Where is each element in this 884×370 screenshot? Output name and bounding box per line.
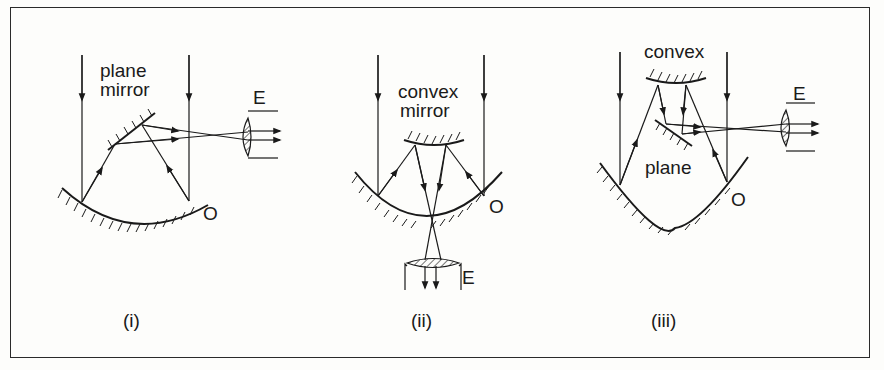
- plane-mirror-label-i-line1: plane: [100, 61, 147, 80]
- eyepiece-label-iii: E: [793, 84, 806, 103]
- objective-mirror-i: [62, 188, 208, 224]
- objective-mirror-ii: [355, 172, 502, 216]
- convex-mirror-label-iii: convex: [644, 42, 704, 61]
- caption-i: (i): [123, 311, 140, 330]
- eyepiece-lens-ii: [407, 259, 459, 268]
- objective-label-i: O: [203, 204, 218, 223]
- caption-iii: (iii): [651, 311, 676, 330]
- objective-label-ii: O: [489, 197, 504, 216]
- plane-mirror-label-iii: plane: [645, 158, 692, 177]
- objective-label-iii: O: [731, 190, 746, 209]
- eyepiece-label-i: E: [253, 88, 266, 107]
- eyepiece-label-ii: E: [462, 268, 475, 287]
- convex-mirror-label-ii-line1: convex: [398, 82, 458, 101]
- eyepiece-lens-i: [243, 118, 251, 156]
- convex-mirror-label-ii-line2: mirror: [400, 101, 450, 120]
- plane-mirror-label-i-line2: mirror: [100, 80, 150, 99]
- eyepiece-lens-iii: [781, 110, 790, 146]
- panel-i-diagram: [58, 55, 280, 232]
- panel-iii-diagram: [597, 52, 818, 235]
- caption-ii: (ii): [411, 311, 432, 330]
